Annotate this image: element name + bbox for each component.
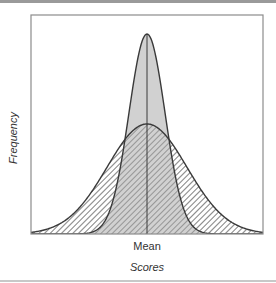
- x-tick-mean: Mean: [117, 240, 177, 252]
- x-axis-label: Scores: [107, 261, 187, 273]
- y-axis-label: Frequency: [3, 128, 23, 148]
- bottom-border: [0, 280, 276, 282]
